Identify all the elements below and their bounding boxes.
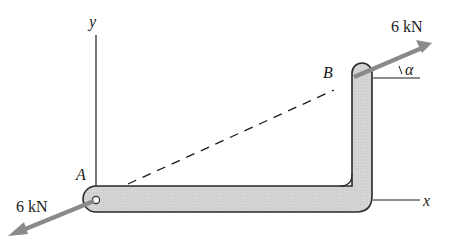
diagram-canvas: y x 6 kN A 6 kN B α <box>0 0 453 246</box>
inner-corner <box>340 174 352 186</box>
point-label-B: B <box>323 64 333 81</box>
angle-label-alpha: α <box>405 61 414 78</box>
dashed-line-AB <box>128 90 334 184</box>
y-axis-label: y <box>87 13 97 31</box>
bent-member-diagram: y x 6 kN A 6 kN B α <box>0 0 453 246</box>
angle-arc <box>399 66 402 74</box>
force-label-A: 6 kN <box>16 198 48 215</box>
force-arrow-A-head <box>8 222 28 236</box>
point-label-A: A <box>75 166 86 183</box>
force-label-B: 6 kN <box>391 18 423 35</box>
bent-member <box>83 63 372 212</box>
x-axis-label: x <box>422 192 430 209</box>
